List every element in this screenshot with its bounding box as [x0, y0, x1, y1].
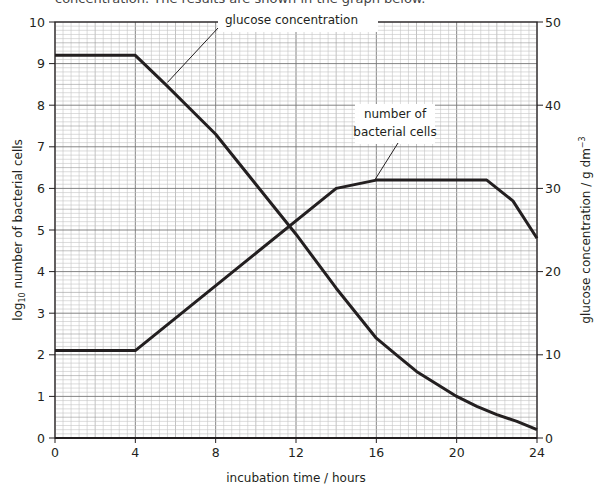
y-right-tick-label: 30	[545, 181, 561, 196]
x-tick-label: 0	[51, 445, 59, 460]
y-right-tick-label: 50	[545, 15, 561, 30]
x-tick-label: 12	[288, 445, 304, 460]
x-tick-label: 24	[529, 445, 545, 460]
y-left-tick-label: 5	[37, 223, 45, 238]
y-right-tick-label: 40	[545, 98, 561, 113]
x-tick-label: 8	[212, 445, 220, 460]
y-right-tick-label: 20	[545, 264, 561, 279]
x-tick-label: 20	[449, 445, 465, 460]
line-chart: 0481216202401234567891001020304050incuba…	[0, 0, 604, 492]
annotation-leader	[375, 143, 398, 179]
y-left-tick-label: 6	[37, 181, 45, 196]
y-left-tick-label: 3	[37, 306, 45, 321]
x-axis-label: incubation time / hours	[226, 471, 365, 485]
annotation-glucose: glucose concentration	[225, 13, 358, 27]
annotation-bacterial-line1: number of	[364, 107, 427, 121]
y-left-tick-label: 0	[37, 431, 45, 446]
y-left-axis-label: log10 number of bacterial cells	[11, 139, 27, 321]
y-left-tick-label: 9	[37, 56, 45, 71]
y-right-axis-label: glucose concentration / g dm−3	[578, 136, 593, 323]
annotation-bacterial-line2: bacterial cells	[353, 125, 436, 139]
y-left-tick-label: 7	[37, 139, 45, 154]
y-left-tick-label: 8	[37, 98, 45, 113]
y-left-tick-label: 4	[37, 264, 45, 279]
x-tick-label: 16	[368, 445, 384, 460]
x-tick-label: 4	[131, 445, 139, 460]
y-left-tick-label: 2	[37, 347, 45, 362]
y-left-tick-label: 10	[29, 15, 45, 30]
y-left-tick-label: 1	[37, 389, 45, 404]
y-right-tick-label: 10	[545, 347, 561, 362]
y-right-tick-label: 0	[545, 431, 553, 446]
